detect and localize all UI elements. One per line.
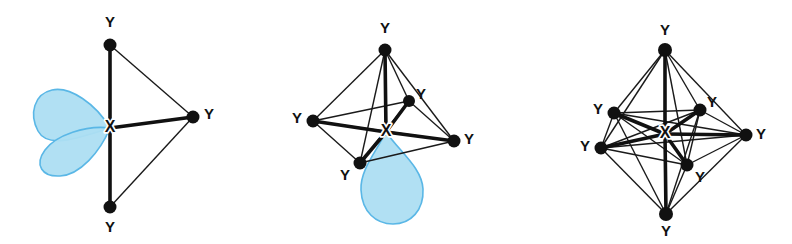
atom-dot-top-apex xyxy=(658,43,672,57)
lone-pair-group xyxy=(361,132,423,224)
atom-dot-apex xyxy=(379,44,392,57)
bond-x-to-bottomapex xyxy=(665,134,666,214)
diagram-panel-pentagonal-bipyramidal: Y Y Y Y Y Y Y X xyxy=(528,0,792,244)
atom-dot-upper-left xyxy=(608,107,621,120)
atom-label-right: Y xyxy=(204,105,214,122)
atom-dot-lower-left xyxy=(595,142,608,155)
atom-label-front: Y xyxy=(695,168,705,185)
bond-x-to-right xyxy=(110,117,193,128)
atom-dot-front-left xyxy=(354,157,367,170)
atom-label-back-right: Y xyxy=(416,85,426,102)
atom-dot-left xyxy=(307,115,320,128)
edge-apex-to-left xyxy=(313,50,385,121)
edge-topapex-to-lowerleft xyxy=(601,50,665,148)
lone-pair-group xyxy=(34,89,110,176)
bond-group xyxy=(110,45,193,207)
atom-dot-top xyxy=(104,39,117,52)
atom-label-right: Y xyxy=(464,130,474,147)
atom-dot-back-right xyxy=(403,95,415,107)
bond-x-to-right xyxy=(386,132,454,141)
atom-dot-right xyxy=(448,135,461,148)
atom-dot-bottom xyxy=(104,201,117,214)
edge-bottomapex-to-upperleft xyxy=(614,113,666,214)
atom-dot-right xyxy=(187,111,200,124)
bond-top-to-right xyxy=(110,45,193,117)
central-atom-label: X xyxy=(381,122,392,139)
atom-label-apex: Y xyxy=(380,19,390,36)
atom-label-right: Y xyxy=(756,125,766,142)
edge-topapex-to-right xyxy=(665,50,746,135)
atom-label-bottom-apex: Y xyxy=(661,222,671,239)
atom-dot-right xyxy=(740,129,753,142)
atom-label-upper-left: Y xyxy=(593,100,603,117)
bond-x-to-apex xyxy=(385,50,386,132)
bond-bottom-to-right xyxy=(110,117,193,207)
diagram-panel-t-shaped: Y Y Y X xyxy=(0,0,264,244)
atom-dot-back-right xyxy=(694,104,707,117)
edge-bottomapex-to-lowerleft xyxy=(601,148,666,214)
edge-upperleft-to-backright xyxy=(614,110,700,113)
atom-dot-bottom-apex xyxy=(659,207,673,221)
atom-label-bottom: Y xyxy=(105,218,115,235)
edge-bottomapex-to-front xyxy=(666,165,687,214)
atom-label-front-left: Y xyxy=(340,166,350,183)
central-atom-label: X xyxy=(105,118,116,135)
atom-label-lower-left: Y xyxy=(580,137,590,154)
molecular-geometry-figure: Y Y Y X xyxy=(0,0,792,244)
atom-label-top-apex: Y xyxy=(660,21,670,38)
bond-x-to-right xyxy=(665,134,746,135)
atom-label-back-right: Y xyxy=(707,93,717,110)
edge-bottomapex-to-right xyxy=(666,135,746,214)
central-atom-label: X xyxy=(660,124,671,141)
lone-pair-teardrop xyxy=(361,132,423,224)
edge-topapex-to-upperleft xyxy=(614,50,665,113)
diagram-panel-square-pyramidal: Y Y Y Y Y X xyxy=(264,0,528,244)
atom-label-left: Y xyxy=(292,109,302,126)
atom-label-top: Y xyxy=(105,13,115,30)
edge-apex-to-backright xyxy=(385,50,409,101)
atom-dot-front xyxy=(681,159,694,172)
